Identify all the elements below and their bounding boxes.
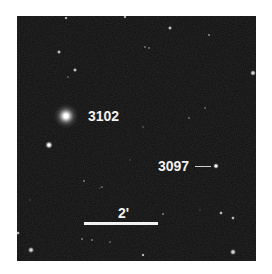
- galaxy-3097-pointer-line: [195, 166, 211, 167]
- galaxy-label-3102: 3102: [88, 109, 119, 123]
- scale-bar: [84, 222, 158, 225]
- scale-bar-label: 2': [118, 206, 129, 220]
- galaxy-label-3097: 3097: [158, 159, 189, 173]
